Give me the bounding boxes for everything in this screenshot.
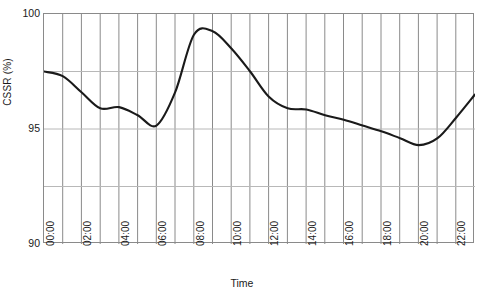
y-axis-tick-labels: 100 95 90	[0, 0, 40, 296]
y-tick-label-95: 95	[4, 123, 40, 134]
plot-area	[43, 13, 474, 243]
x-tick-label-1400: 14:00	[308, 221, 318, 246]
cssr-time-line-chart: CSSR (%) 100 95 90	[0, 0, 484, 296]
x-tick-label-1800: 18:00	[383, 221, 393, 246]
cssr-line-series	[44, 28, 475, 145]
x-tick-label-2200: 22:00	[457, 221, 467, 246]
x-tick-label-0800: 08:00	[196, 221, 206, 246]
x-tick-label-1000: 10:00	[233, 221, 243, 246]
horizontal-gridlines	[44, 72, 475, 187]
x-tick-label-0400: 04:00	[121, 221, 131, 246]
y-tick-label-90: 90	[4, 238, 40, 249]
x-axis-title: Time	[0, 277, 484, 289]
plot-svg	[44, 14, 475, 244]
x-tick-label-0200: 02:00	[83, 221, 93, 246]
x-tick-label-2000: 20:00	[420, 221, 430, 246]
x-tick-label-0000: 00:00	[46, 221, 56, 246]
x-tick-label-1200: 12:00	[270, 221, 280, 246]
x-tick-label-0600: 06:00	[158, 221, 168, 246]
y-tick-label-100: 100	[4, 8, 40, 19]
x-tick-label-1600: 16:00	[345, 221, 355, 246]
